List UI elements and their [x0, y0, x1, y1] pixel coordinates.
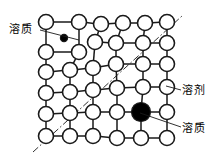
solvent-atom — [138, 16, 153, 31]
solvent-atom — [160, 80, 175, 95]
solvent-atom — [39, 45, 54, 60]
solvent-atom — [39, 65, 54, 80]
solvent-atom — [39, 107, 54, 122]
solvent-atom — [109, 36, 124, 51]
solvent-atom — [160, 15, 175, 30]
lattice-bond — [100, 65, 109, 67]
solvent-atom — [160, 57, 175, 72]
solvent-atom — [63, 129, 78, 144]
solvent-atom — [110, 81, 125, 96]
solvent-atom — [63, 63, 78, 78]
solvent-atom — [134, 131, 149, 146]
label-solute-top: 溶质 — [9, 24, 32, 36]
solvent-atom — [72, 15, 87, 30]
solvent-atom — [110, 131, 125, 146]
solvent-atom — [86, 83, 101, 98]
solvent-atom — [160, 131, 175, 146]
solvent-atom — [136, 57, 151, 72]
label-solute-right: 溶质 — [182, 123, 205, 135]
solvent-atom — [110, 105, 125, 120]
solvent-atom — [160, 105, 175, 120]
solvent-atom — [160, 36, 175, 51]
solvent-atom — [39, 15, 54, 30]
solvent-atom — [136, 36, 151, 51]
solute-atom-substitutional — [132, 103, 151, 122]
solvent-atom — [39, 129, 54, 144]
solvent-atom — [94, 17, 109, 32]
lattice-bond — [100, 137, 110, 138]
solvent-atom — [86, 61, 101, 76]
solvent-atom — [136, 80, 151, 95]
lattice-figure: 溶质 溶剂 溶质 — [0, 0, 213, 159]
solvent-atom — [86, 105, 101, 120]
solvent-atom — [109, 57, 124, 72]
solvent-atom — [72, 45, 87, 60]
lattice-bond — [53, 71, 63, 72]
solvent-atom — [116, 16, 131, 31]
solvent-atom — [86, 129, 101, 144]
label-solvent-right: 溶剂 — [182, 85, 205, 97]
solvent-atom — [63, 85, 78, 100]
lattice-bond — [100, 89, 110, 90]
solvent-atom — [63, 106, 78, 121]
solvent-atom — [39, 86, 54, 101]
solvent-atom — [88, 35, 103, 50]
nodes-layer — [39, 15, 175, 146]
lattice-bond — [94, 49, 95, 61]
